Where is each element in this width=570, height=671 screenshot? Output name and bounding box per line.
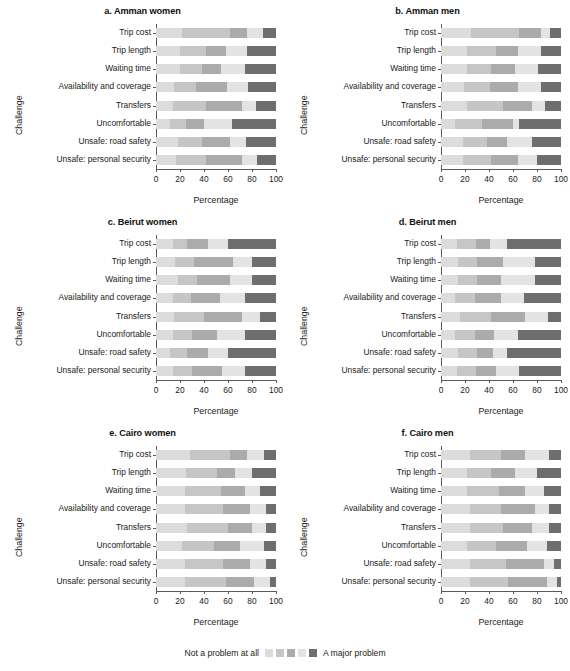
- bar-segment: [248, 82, 276, 92]
- bar-segment: [441, 523, 470, 533]
- bar-segment: [519, 119, 561, 129]
- bar-segment: [156, 366, 173, 376]
- bar-segment: [156, 275, 178, 285]
- bar-segment: [441, 257, 458, 267]
- bar-segment: [156, 64, 180, 74]
- bar-segment: [547, 541, 561, 551]
- bar-segment: [441, 330, 455, 340]
- category-label: Unsafe: personal security: [57, 577, 152, 586]
- bar-segment: [206, 155, 242, 165]
- bar-segment: [156, 523, 187, 533]
- bar-segment: [208, 239, 228, 249]
- category-label: Unsafe: personal security: [57, 366, 152, 375]
- bar-segment: [227, 82, 249, 92]
- bar-segment: [247, 28, 263, 38]
- bar-segment: [491, 64, 515, 74]
- x-tick-label: 60: [500, 174, 526, 184]
- plot-area-e: 020406080100Percentage: [156, 446, 276, 591]
- bar-segment: [178, 275, 197, 285]
- bar-segment: [190, 450, 231, 460]
- stacked-bar: [441, 523, 561, 533]
- bar-segment: [493, 348, 507, 358]
- category-label: Waiting time: [390, 275, 436, 284]
- bar-segment: [257, 155, 276, 165]
- bar-segment: [541, 28, 551, 38]
- category-label: Unsafe: personal security: [342, 155, 437, 164]
- stacked-bar: [156, 82, 276, 92]
- bar-segment: [174, 82, 196, 92]
- stacked-bar: [156, 523, 276, 533]
- bar-segment: [230, 275, 252, 285]
- x-tick: [204, 380, 205, 383]
- bar-segment: [537, 155, 561, 165]
- bar-segment: [508, 577, 546, 587]
- stacked-bar: [441, 330, 561, 340]
- stacked-bar: [156, 119, 276, 129]
- bar-segment: [537, 468, 561, 478]
- bar-segment: [230, 28, 247, 38]
- stacked-bar: [156, 348, 276, 358]
- x-tick-label: 20: [452, 174, 478, 184]
- x-tick: [228, 169, 229, 172]
- bar-segment: [245, 486, 261, 496]
- bar-segment: [525, 312, 548, 322]
- bar-segment: [515, 468, 537, 478]
- stacked-bar: [441, 450, 561, 460]
- bar-segment: [156, 239, 173, 249]
- x-tick: [228, 591, 229, 594]
- bar-segment: [441, 541, 467, 551]
- bar-segment: [549, 450, 561, 460]
- bar-segment: [266, 523, 276, 533]
- x-axis-title-b: Percentage: [441, 195, 561, 205]
- x-tick: [156, 169, 157, 172]
- bar-segment: [441, 101, 467, 111]
- bar-segment: [518, 330, 561, 340]
- bar-segment: [476, 239, 490, 249]
- bar-segment: [182, 541, 213, 551]
- bar-segment: [235, 468, 252, 478]
- bar-segment: [245, 330, 276, 340]
- bar-segment: [524, 293, 561, 303]
- x-axis-line: [156, 591, 276, 592]
- bar-segment: [156, 450, 190, 460]
- bar-segment: [499, 486, 525, 496]
- category-label: Uncomfortable: [97, 119, 151, 128]
- bar-segment: [477, 275, 501, 285]
- bar-segment: [156, 541, 182, 551]
- bar-segment: [467, 64, 491, 74]
- bar-segment: [226, 577, 255, 587]
- bar-segment: [491, 468, 515, 478]
- stacked-bar: [441, 155, 561, 165]
- bar-segment: [214, 541, 240, 551]
- bar-segment: [550, 28, 561, 38]
- category-label: Unsafe: road safety: [78, 137, 151, 146]
- category-label: Unsafe: road safety: [363, 348, 436, 357]
- bar-segment: [223, 559, 249, 569]
- bar-segment: [441, 312, 460, 322]
- bar-segment: [186, 119, 204, 129]
- bar-segment: [187, 348, 207, 358]
- stacked-bar: [156, 504, 276, 514]
- bar-segment: [501, 504, 535, 514]
- bar-segment: [230, 137, 246, 147]
- stacked-bar: [156, 541, 276, 551]
- stacked-bar: [441, 559, 561, 569]
- x-tick: [561, 169, 562, 172]
- bar-segment: [185, 559, 223, 569]
- category-label: Transfers: [401, 101, 436, 110]
- bar-segment: [194, 257, 232, 267]
- bar-segment: [156, 293, 173, 303]
- x-tick-label: 40: [191, 596, 217, 606]
- bar-segment: [186, 468, 217, 478]
- bar-segment: [467, 46, 496, 56]
- bar-segment: [557, 577, 561, 587]
- bar-segment: [548, 312, 561, 322]
- bar-segment: [527, 541, 546, 551]
- plot-area-a: 020406080100Percentage: [156, 24, 276, 169]
- bar-segment: [245, 366, 276, 376]
- bar-segment: [503, 101, 532, 111]
- x-tick-label: 20: [452, 596, 478, 606]
- bar-segment: [185, 577, 226, 587]
- bar-segment: [544, 559, 554, 569]
- category-label: Unsafe: personal security: [342, 577, 437, 586]
